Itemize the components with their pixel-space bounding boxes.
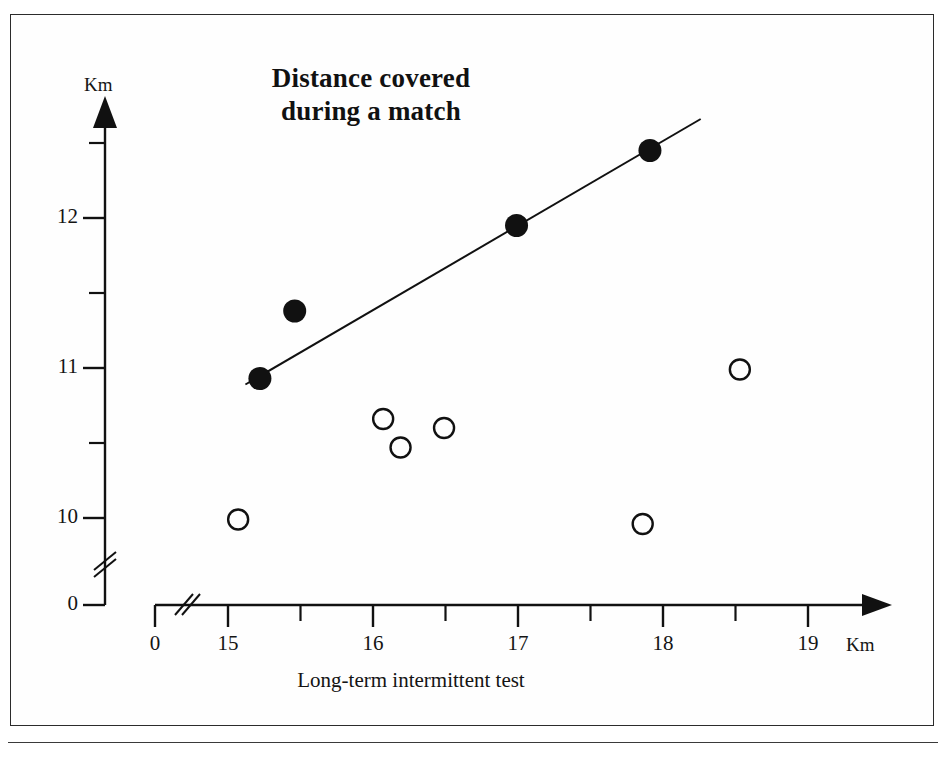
data-point-filled[interactable] xyxy=(248,367,271,390)
x-axis-arrow-icon xyxy=(862,594,892,616)
data-point-open[interactable] xyxy=(633,514,653,534)
data-point-filled[interactable] xyxy=(283,300,306,323)
data-point-open[interactable] xyxy=(391,438,411,458)
data-point-open[interactable] xyxy=(434,418,454,438)
data-point-open[interactable] xyxy=(373,409,393,429)
regression-line xyxy=(245,119,700,385)
y-axis-arrow-icon xyxy=(93,96,117,128)
data-point-open[interactable] xyxy=(228,510,248,530)
scatter-plot-canvas xyxy=(0,0,948,759)
data-point-filled[interactable] xyxy=(505,214,528,237)
figure-page: Distance covered during a match Km Km Lo… xyxy=(0,0,948,759)
data-point-open[interactable] xyxy=(730,360,750,380)
data-point-filled[interactable] xyxy=(638,139,661,162)
